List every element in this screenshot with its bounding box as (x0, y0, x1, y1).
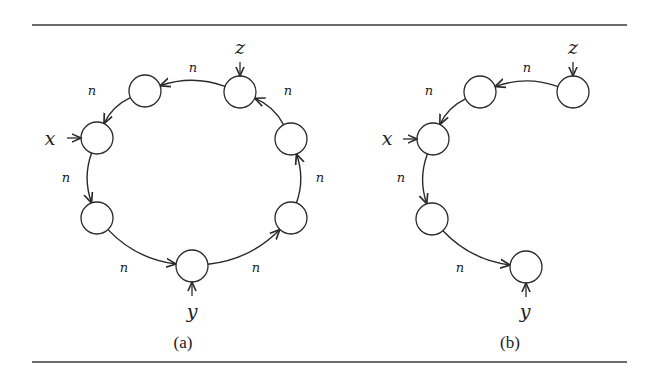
panel-b-acyclic-list: nnnnzxy(b) (382, 36, 589, 352)
list-node (417, 123, 449, 155)
edge-label-n: n (62, 170, 70, 185)
list-node (129, 75, 161, 107)
pointer-var-z: z (567, 36, 579, 58)
next-edge (104, 98, 130, 124)
next-edge (443, 231, 510, 265)
list-node (416, 203, 448, 235)
next-edge (255, 98, 284, 125)
edge-label-n: n (252, 260, 260, 275)
next-edge (423, 154, 428, 204)
next-edge (87, 153, 91, 203)
edge-label-n: n (523, 60, 531, 75)
edge-label-n: n (397, 170, 405, 185)
list-node (176, 250, 208, 282)
pointer-var-y: y (519, 300, 531, 322)
pointer-var-y: y (186, 300, 198, 322)
next-edge (160, 80, 225, 86)
next-edge (495, 81, 558, 87)
list-node (275, 202, 307, 234)
edge-label-n: n (189, 60, 197, 75)
next-edge (440, 99, 466, 125)
pointer-var-z: z (234, 36, 246, 58)
pointer-var-x: x (45, 127, 56, 149)
list-node (557, 76, 589, 108)
pointer-var-x: x (382, 127, 393, 149)
list-node (464, 76, 496, 108)
next-edge (108, 230, 176, 264)
edge-label-n: n (456, 260, 464, 275)
list-node (81, 122, 113, 154)
panel-a-cyclic-list: nnnnnnnzxy(a) (45, 36, 325, 352)
list-node (81, 202, 113, 234)
linked-list-figure: nnnnnnnzxy(a) nnnnzxy(b) (0, 0, 649, 375)
list-node (510, 251, 542, 283)
edge-label-n: n (120, 260, 128, 275)
list-node (275, 123, 307, 155)
list-node (224, 76, 256, 108)
next-edge (296, 154, 300, 203)
panel-caption-b: (b) (500, 333, 520, 352)
edge-label-n: n (425, 83, 433, 98)
panel-caption-a: (a) (174, 333, 193, 352)
edge-label-n: n (284, 83, 292, 98)
edge-label-n: n (316, 170, 324, 185)
next-edge (208, 229, 280, 264)
edge-label-n: n (88, 83, 96, 98)
